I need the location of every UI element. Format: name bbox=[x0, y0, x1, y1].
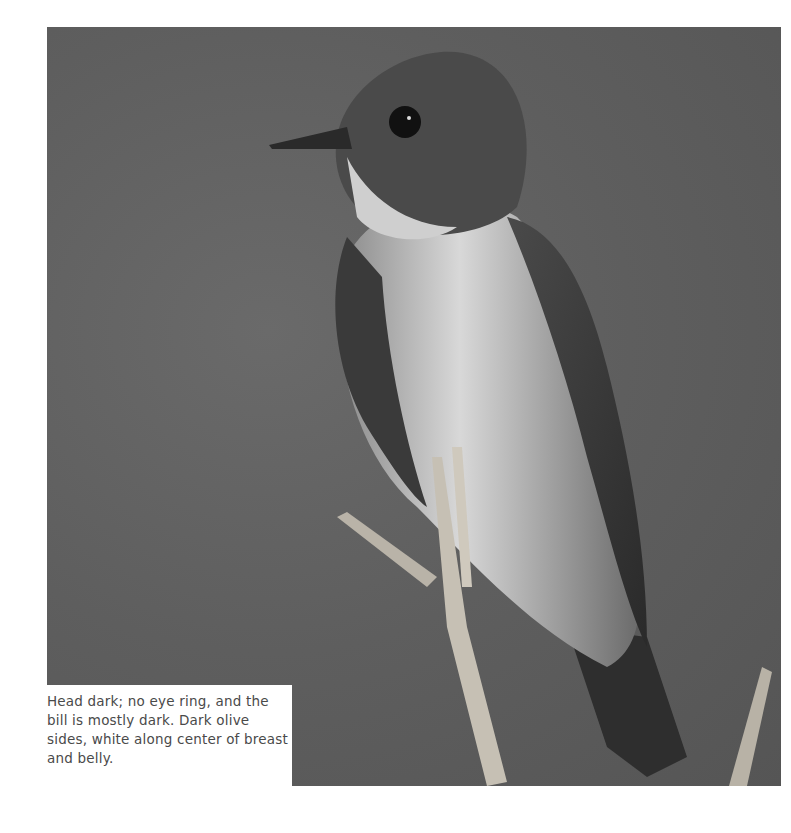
bird-photo bbox=[47, 27, 781, 786]
bird-illustration bbox=[47, 27, 781, 786]
photo-caption: Head dark; no eye ring, and the bill is … bbox=[40, 685, 292, 786]
